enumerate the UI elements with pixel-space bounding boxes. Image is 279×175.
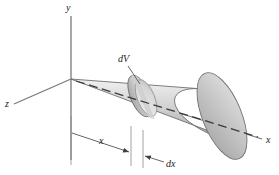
y-axis-label: y xyxy=(65,2,71,13)
figure-canvas: dV x dx y z x xyxy=(0,0,279,175)
x-axis-label: x xyxy=(265,134,271,145)
dx-dimension: dx xyxy=(143,130,176,169)
dV-label: dV xyxy=(118,53,131,64)
cone-base-ellipse xyxy=(187,66,258,166)
z-axis-line xyxy=(14,79,71,104)
x-dimension: x xyxy=(71,116,131,166)
cone-differential-volume-figure: dV x dx y z x xyxy=(0,0,279,175)
cone-solid xyxy=(71,66,257,166)
dx-label: dx xyxy=(166,158,176,169)
dx-dimension-line xyxy=(145,156,164,162)
z-axis-label: z xyxy=(4,98,9,109)
x-dimension-label: x xyxy=(98,135,104,146)
